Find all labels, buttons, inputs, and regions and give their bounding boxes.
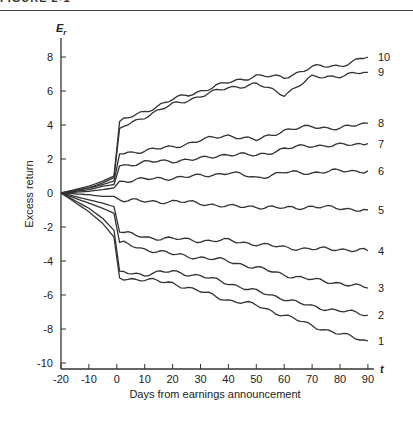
x-tick-label: 90 <box>362 373 374 385</box>
x-tick-label: 30 <box>194 373 206 385</box>
y-tick-label: 6 <box>47 85 53 97</box>
series-label-4: 4 <box>378 245 384 257</box>
x-axis-symbol: t <box>380 363 385 375</box>
series-label-2: 2 <box>378 309 384 321</box>
series-label-9: 9 <box>378 66 384 78</box>
x-tick-label: 60 <box>278 373 290 385</box>
series-lines <box>61 57 368 341</box>
series-label-3: 3 <box>378 282 384 294</box>
y-tick-label: 8 <box>47 51 53 63</box>
x-tick-label: 80 <box>334 373 346 385</box>
series-line-7 <box>61 143 368 193</box>
x-tick-label: -10 <box>81 373 97 385</box>
x-tick-label: 50 <box>250 373 262 385</box>
series-labels: 10987654321 <box>378 51 390 347</box>
y-tick-label: 2 <box>47 153 53 165</box>
x-tick-label: 20 <box>166 373 178 385</box>
x-tick-label: 70 <box>306 373 318 385</box>
line-chart: -10-8-6-4-202468-20-10010203040506070809… <box>0 0 413 423</box>
y-tick-label: -6 <box>43 289 53 301</box>
x-tick-label: -20 <box>53 373 69 385</box>
y-tick-label: -4 <box>43 255 53 267</box>
y-axis-title: Excess return <box>23 160 35 227</box>
x-axis-title: Days from earnings announcement <box>129 388 300 400</box>
y-tick-label: -8 <box>43 323 53 335</box>
series-label-8: 8 <box>378 117 384 129</box>
series-line-2 <box>61 193 368 316</box>
series-label-6: 6 <box>378 165 384 177</box>
series-line-5 <box>61 193 368 211</box>
series-label-7: 7 <box>378 138 384 150</box>
y-tick-label: 0 <box>47 187 53 199</box>
x-tick-label: 10 <box>139 373 151 385</box>
y-axis-symbol: Er <box>56 22 67 37</box>
y-tick-label: -2 <box>43 221 53 233</box>
series-label-10: 10 <box>378 51 390 63</box>
y-tick-label: 4 <box>47 119 53 131</box>
x-tick-label: 40 <box>222 373 234 385</box>
y-tick-label: -10 <box>37 357 53 369</box>
series-label-1: 1 <box>378 335 384 347</box>
x-tick-label: 0 <box>114 373 120 385</box>
series-label-5: 5 <box>378 204 384 216</box>
series-line-1 <box>61 193 368 341</box>
